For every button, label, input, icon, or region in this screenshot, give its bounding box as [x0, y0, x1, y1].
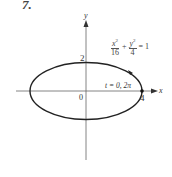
problem-number: 7. [22, 0, 32, 11]
equals-rhs: = 1 [139, 43, 150, 51]
plus-sign: + [122, 43, 127, 51]
ellipse-equation: x2 16 + y2 4 = 1 [110, 38, 149, 57]
ellipse-figure [0, 0, 172, 177]
x-axis-label: x [159, 87, 163, 95]
fraction-y: y2 4 [129, 38, 137, 57]
y-tick-label-2: 2 [80, 54, 85, 63]
x-tick-label-4: 4 [140, 94, 145, 103]
origin-label: 0 [79, 94, 83, 102]
fraction-x: x2 16 [110, 38, 120, 57]
y-axis-arrow-icon [84, 20, 89, 27]
parameter-label: t = 0, 2π [105, 82, 131, 90]
x-axis-arrow-icon [151, 89, 158, 94]
y-axis-label: y [84, 12, 88, 20]
